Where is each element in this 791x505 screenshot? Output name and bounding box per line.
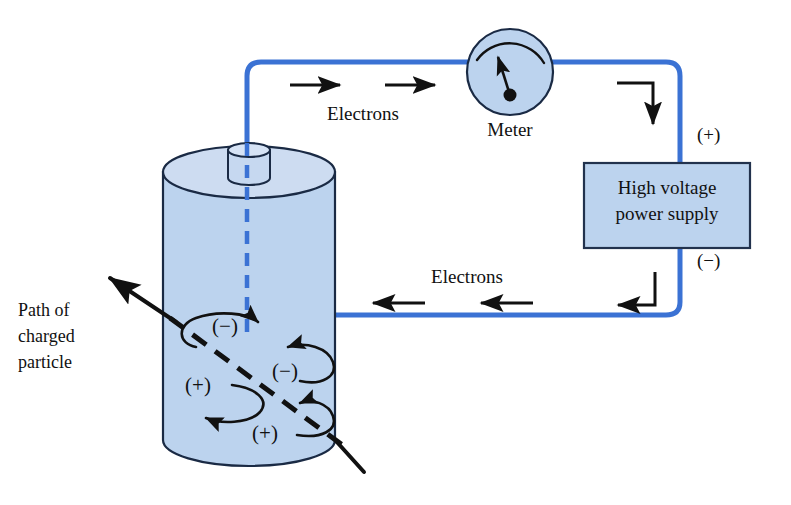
charge-label-plus-bottom-center: (+)	[252, 421, 278, 445]
power-supply-box[interactable]: High voltage power supply	[584, 163, 750, 248]
path-label-line3: particle	[18, 352, 72, 372]
wire-top-right-segment	[552, 62, 680, 165]
terminal-label-positive: (+)	[697, 124, 720, 146]
power-supply-line1: High voltage	[618, 177, 717, 198]
bent-arrow-down-icon	[617, 83, 653, 124]
particle-path-tail	[336, 441, 364, 472]
circuit-diagram-svg: (−) (−) (+) (+) Meter High voltage power…	[0, 0, 791, 505]
meter-pivot	[504, 89, 517, 102]
power-supply-line2: power supply	[616, 203, 719, 224]
bent-arrow-left-icon	[618, 272, 655, 305]
charge-label-minus-middle-right: (−)	[272, 359, 298, 383]
charge-label-minus-upper-left: (−)	[212, 314, 238, 338]
meter-face	[467, 29, 553, 115]
diagram-canvas: (−) (−) (+) (+) Meter High voltage power…	[0, 0, 791, 505]
electrons-label-top: Electrons	[327, 103, 399, 124]
terminal-label-negative: (−)	[697, 250, 720, 272]
electrons-label-bottom: Electrons	[431, 266, 503, 287]
path-label-line1: Path of	[18, 300, 70, 320]
charge-label-plus-lower-left: (+)	[185, 373, 211, 397]
path-label-line2: charged	[18, 326, 75, 346]
meter-label: Meter	[487, 119, 533, 140]
meter-gauge[interactable]	[467, 29, 553, 115]
